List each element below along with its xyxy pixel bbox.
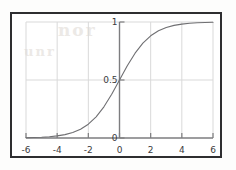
- figure-container: nor unr -6-4-20246 00.51: [0, 0, 236, 170]
- x-tick-label: -6: [22, 145, 31, 155]
- x-tick-label: -2: [84, 145, 93, 155]
- x-tick-label: 4: [179, 145, 185, 155]
- y-tick-label: 1: [112, 17, 118, 27]
- x-tick-label: -4: [53, 145, 62, 155]
- x-tick-label: 0: [117, 145, 123, 155]
- x-tick-label: 6: [210, 145, 216, 155]
- x-tick-label: 2: [148, 145, 154, 155]
- y-tick-label: 0: [112, 133, 118, 143]
- y-tick-label: 0.5: [103, 75, 117, 85]
